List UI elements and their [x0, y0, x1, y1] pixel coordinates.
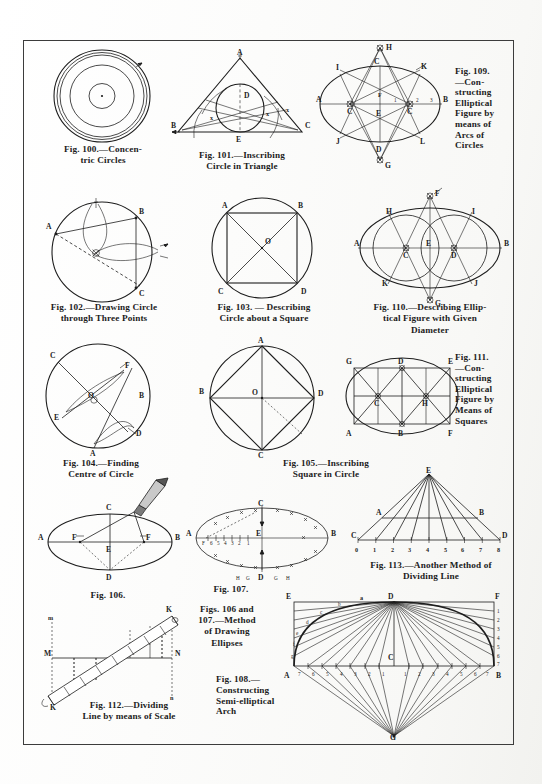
- svg-text:H: H: [422, 399, 428, 408]
- svg-text:F: F: [125, 361, 130, 370]
- fig-109-drawing: H C K I J L D A B E F G C C 1 2 3: [316, 42, 451, 170]
- svg-text:B: B: [496, 671, 501, 680]
- svg-text:5: 5: [460, 671, 463, 677]
- caption-line: Dividing Line: [338, 571, 524, 582]
- svg-text:F: F: [495, 592, 500, 601]
- svg-text:D: D: [398, 357, 404, 366]
- svg-text:J: J: [336, 137, 340, 146]
- caption-line: Fig. 113.—Another Method of: [338, 560, 524, 571]
- svg-text:5: 5: [326, 671, 329, 677]
- svg-text:A: A: [354, 239, 360, 248]
- svg-text:F: F: [202, 540, 205, 546]
- figure-100-caption: Fig. 100.—Concen- tric Circles: [30, 144, 176, 167]
- svg-text:x: x: [286, 106, 290, 113]
- figure-109-caption: Fig. 109. —Con- structing Elliptical Fig…: [455, 66, 515, 151]
- svg-text:3: 3: [497, 626, 500, 632]
- svg-text:B: B: [175, 533, 180, 542]
- svg-text:3: 3: [432, 671, 435, 677]
- svg-text:C: C: [218, 287, 223, 296]
- svg-text:K: K: [421, 62, 427, 71]
- svg-text:B: B: [479, 508, 484, 517]
- caption-line: tical Figure with Given: [348, 313, 512, 324]
- svg-text:5: 5: [217, 540, 220, 546]
- svg-text:4: 4: [340, 671, 343, 677]
- fig-100-drawing: [32, 46, 172, 146]
- figure-106: A B C D E F F: [34, 486, 194, 582]
- svg-text:B: B: [398, 429, 403, 438]
- svg-text:2: 2: [497, 617, 500, 623]
- svg-text:6: 6: [461, 546, 464, 553]
- svg-text:E: E: [426, 239, 431, 248]
- caption-line: —Con-: [455, 363, 515, 374]
- caption-line: Fig. 104.—Finding: [26, 458, 176, 469]
- svg-text:A: A: [346, 429, 352, 438]
- svg-text:F: F: [146, 533, 151, 542]
- figure-110: F H I A B C D E K J G: [350, 188, 510, 308]
- svg-text:O: O: [265, 237, 271, 246]
- caption-line: Arch: [216, 706, 296, 717]
- svg-text:m: m: [48, 614, 54, 621]
- caption-line: tric Circles: [30, 155, 176, 166]
- svg-text:x: x: [266, 110, 270, 117]
- svg-text:G: G: [274, 575, 278, 581]
- svg-text:7: 7: [486, 671, 489, 677]
- svg-text:G: G: [246, 575, 250, 581]
- svg-text:B: B: [443, 95, 448, 104]
- caption-line: Elliptical: [455, 98, 515, 109]
- svg-text:C: C: [403, 251, 408, 260]
- svg-text:1: 1: [373, 546, 376, 553]
- caption-line: structing: [455, 87, 515, 98]
- figure-104: C F B E O A D: [32, 340, 177, 458]
- svg-text:3: 3: [354, 671, 357, 677]
- caption-line: through Three Points: [22, 313, 186, 324]
- caption-line: Line by means of Scale: [44, 711, 214, 722]
- svg-text:E: E: [286, 592, 291, 601]
- caption-line: Circle in Triangle: [162, 161, 322, 172]
- svg-text:D: D: [106, 573, 112, 582]
- svg-text:E: E: [256, 529, 261, 538]
- svg-text:2: 2: [391, 546, 394, 553]
- svg-text:C: C: [258, 499, 263, 508]
- svg-text:7: 7: [497, 661, 500, 667]
- svg-text:A: A: [258, 336, 264, 345]
- fig-106-drawing: A B C D E F F: [34, 486, 194, 582]
- caption-line: Arcs of: [455, 130, 515, 141]
- svg-text:c: c: [320, 609, 323, 615]
- caption-line: Fig. 112.—Dividing: [44, 700, 214, 711]
- svg-text:I: I: [472, 207, 475, 216]
- caption-line: Fig. 108.—: [216, 674, 296, 685]
- caption-line: Figure by: [455, 108, 515, 119]
- figure-113: E A B C D 0 1 2 3 4 5 6 7 8: [348, 470, 513, 560]
- svg-text:1: 1: [247, 540, 250, 546]
- fig-110-drawing: F H I A B C D E K J G: [350, 188, 510, 308]
- svg-text:4: 4: [497, 635, 500, 641]
- figure-110-caption: Fig. 110.—Describing Ellip- tical Figure…: [348, 302, 512, 336]
- svg-text:A: A: [237, 48, 243, 57]
- svg-text:3: 3: [231, 540, 234, 546]
- svg-text:0: 0: [355, 546, 358, 553]
- figure-112-caption: Fig. 112.—Dividing Line by means of Scal…: [44, 700, 214, 723]
- caption-line: Fig. 103. — Describing: [184, 302, 344, 313]
- svg-text:4: 4: [426, 546, 429, 553]
- svg-text:5: 5: [444, 546, 447, 553]
- svg-text:1: 1: [382, 671, 385, 677]
- caption-line: Means of: [455, 405, 515, 416]
- svg-text:4: 4: [224, 540, 227, 546]
- svg-text:5: 5: [497, 644, 500, 650]
- svg-text:A: A: [38, 533, 44, 542]
- caption-line: Fig. 102.—Drawing Circle: [22, 302, 186, 313]
- fig-104-drawing: C F B E O A D: [32, 340, 177, 458]
- svg-text:N: N: [175, 649, 181, 658]
- caption-line: Fig. 101.—Inscribing: [162, 150, 322, 161]
- fig-103-drawing: A B C D O: [192, 196, 332, 304]
- figure-103: A B C D O: [192, 196, 332, 304]
- figure-112: K K M N m n: [30, 600, 200, 710]
- svg-text:2: 2: [416, 97, 419, 103]
- figure-100: [32, 46, 172, 146]
- svg-text:A: A: [376, 508, 382, 517]
- svg-text:C: C: [50, 351, 55, 360]
- svg-text:K: K: [382, 279, 388, 288]
- svg-text:C: C: [305, 121, 310, 130]
- svg-text:F: F: [72, 533, 77, 542]
- figure-107-caption: Fig. 107.: [196, 584, 266, 595]
